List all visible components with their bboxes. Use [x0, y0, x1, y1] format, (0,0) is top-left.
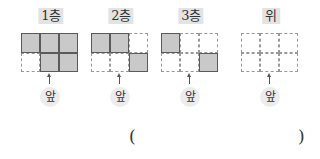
answer-close-paren: ): [298, 126, 305, 146]
top-view-panel: 위 앞: [241, 0, 301, 110]
floor-label: 1층: [38, 8, 63, 24]
filled-cell: [161, 33, 180, 53]
floor-panel-1: 1층 앞: [21, 0, 81, 110]
empty-cell: [241, 53, 260, 73]
empty-cell: [110, 53, 129, 73]
floor-panel-3: 3층 앞: [161, 0, 221, 110]
arrow-up-icon: [49, 76, 50, 84]
empty-cell: [260, 33, 279, 53]
arrow-up-icon: [119, 76, 120, 84]
filled-cell: [40, 33, 59, 53]
filled-cell: [91, 33, 110, 53]
view-label: 위: [262, 8, 280, 24]
empty-cell: [279, 33, 298, 53]
arrow-up-icon: [189, 76, 190, 84]
floor-grid: [21, 33, 78, 72]
filled-cell: [129, 53, 148, 73]
front-label: 앞: [180, 87, 200, 107]
top-view-grid[interactable]: [241, 33, 298, 72]
answer-open-paren: (: [129, 126, 136, 146]
filled-cell: [59, 33, 78, 53]
empty-cell: [199, 33, 218, 53]
filled-cell: [21, 33, 40, 53]
arrow-up-icon: [269, 76, 270, 84]
empty-cell: [21, 53, 40, 73]
empty-cell: [129, 33, 148, 53]
filled-cell: [199, 53, 218, 73]
front-label: 앞: [260, 87, 280, 107]
front-label: 앞: [40, 87, 60, 107]
floor-panel-2: 2층 앞: [91, 0, 151, 110]
filled-cell: [59, 53, 78, 73]
floor-grid: [91, 33, 148, 72]
floor-label: 3층: [178, 8, 203, 24]
empty-cell: [241, 33, 260, 53]
empty-cell: [161, 53, 180, 73]
empty-cell: [91, 53, 110, 73]
empty-cell: [260, 53, 279, 73]
filled-cell: [110, 33, 129, 53]
floor-grid: [161, 33, 218, 72]
empty-cell: [180, 33, 199, 53]
answer-field[interactable]: [140, 126, 295, 146]
empty-cell: [279, 53, 298, 73]
empty-cell: [180, 53, 199, 73]
filled-cell: [40, 53, 59, 73]
floor-label: 2층: [108, 8, 133, 24]
front-label: 앞: [110, 87, 130, 107]
